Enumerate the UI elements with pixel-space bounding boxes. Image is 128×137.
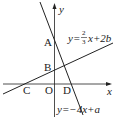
point-c-label: C bbox=[23, 84, 30, 96]
line2-equation: y=−4x+a bbox=[56, 103, 101, 115]
line1-numerator: 2 bbox=[82, 29, 86, 37]
line1-prefix: y= bbox=[67, 32, 80, 44]
origin-label: O bbox=[45, 84, 53, 96]
point-d-label: D bbox=[63, 84, 71, 96]
line1-suffix: x+2b bbox=[87, 32, 112, 44]
y-axis-arrow-icon bbox=[53, 3, 57, 9]
line-steep bbox=[40, 2, 83, 115]
y-axis-label: y bbox=[58, 3, 64, 15]
point-b-label: B bbox=[44, 61, 51, 73]
coordinate-diagram: y x O A B C D y= 2 3 x+2b y=−4x+a bbox=[0, 0, 128, 137]
point-a-label: A bbox=[44, 36, 52, 48]
line1-denominator: 3 bbox=[82, 38, 86, 46]
x-axis-label: x bbox=[106, 85, 112, 97]
